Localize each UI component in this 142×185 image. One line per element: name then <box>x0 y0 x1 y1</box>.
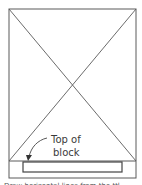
caption-text: Draw horizontal lines from the ttl <box>4 182 120 185</box>
diagram-canvas: Top of block Draw horizontal lines from … <box>0 0 142 185</box>
label-top-of: Top of <box>50 134 81 145</box>
label-block: block <box>53 147 80 158</box>
arrow-icon <box>29 138 47 157</box>
arrowhead-icon <box>26 155 32 161</box>
block-rectangle <box>23 162 122 172</box>
